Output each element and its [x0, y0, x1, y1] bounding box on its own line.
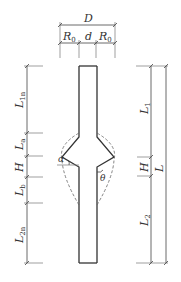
label-L2: L2 [138, 214, 152, 227]
label-H-left: H [13, 162, 26, 173]
right-tick-marks [149, 64, 168, 265]
label-L1n: L1n [13, 91, 27, 109]
theta-arc [97, 170, 103, 172]
label-d: d [85, 30, 92, 43]
label-alpha: α [58, 154, 64, 164]
pile-shaft: α θ [57, 66, 115, 263]
label-La: La [13, 139, 27, 152]
bulb-outline-left [61, 133, 79, 205]
bulb-outline-right [97, 133, 115, 205]
label-L-total: L [153, 165, 166, 173]
pile-left-edge [62, 66, 79, 263]
label-Lb: Lb [13, 184, 27, 197]
label-R0-left: R0 [62, 30, 76, 44]
pile-right-edge [97, 66, 114, 263]
label-L1: L1 [138, 102, 152, 115]
pile-diagram: D R0 d R0 α θ [0, 0, 181, 282]
right-dimensions: L1 H L2 L [136, 64, 168, 265]
label-H-right: H [138, 162, 151, 173]
label-R0-right: R0 [98, 30, 112, 44]
label-theta: θ [100, 173, 106, 183]
label-L2n: L2n [13, 226, 27, 244]
top-dimensions: D R0 d R0 [58, 12, 117, 58]
left-dimensions: L1n La H Lb L2n [13, 64, 43, 265]
label-D: D [83, 12, 93, 25]
